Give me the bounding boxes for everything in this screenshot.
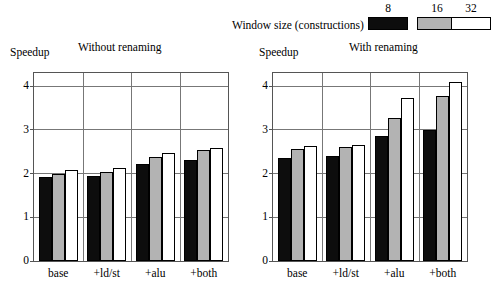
bar-ldst-32 — [113, 168, 126, 261]
bar-base-8 — [278, 158, 291, 261]
bar-base-16 — [291, 149, 304, 261]
bar-base-8 — [39, 177, 52, 261]
y-tick-label-0: 0 — [23, 255, 29, 267]
bar-alu-32 — [162, 153, 175, 261]
legend-key-8: 8 — [368, 2, 408, 14]
bar-ldst-16 — [339, 147, 352, 261]
bar-both-16 — [197, 150, 210, 261]
bar-both-8 — [423, 130, 436, 261]
bar-group: +ld/st — [83, 73, 132, 261]
chart-title: Without renaming — [78, 41, 162, 53]
x-tick-label: +alu — [370, 267, 419, 279]
y-tick-label-3: 3 — [23, 124, 29, 136]
bar-both-32 — [449, 82, 462, 261]
legend: Window size (constructions) 8 16 32 — [0, 4, 497, 34]
bar-alu-16 — [149, 157, 162, 261]
bar-both-32 — [210, 148, 223, 261]
y-tick-label-1: 1 — [23, 212, 29, 224]
bar-group: base — [273, 73, 322, 261]
bar-group: base — [34, 73, 83, 261]
y-tick-label-4: 4 — [23, 80, 29, 92]
bar-both-16 — [436, 96, 449, 261]
legend-title: Window size (constructions) — [232, 19, 364, 31]
bar-both-8 — [184, 160, 197, 261]
chart-title: With renaming — [349, 41, 418, 53]
plot-area: 01234base+ld/st+alu+both — [272, 72, 468, 262]
y-tick-label-3: 3 — [262, 124, 268, 136]
bar-group: +alu — [131, 73, 180, 261]
x-tick-label: +ld/st — [322, 267, 371, 279]
bar-group: +both — [419, 73, 468, 261]
bar-ldst-16 — [100, 172, 113, 261]
legend-entry-8: 8 — [368, 17, 408, 30]
bar-base-16 — [52, 174, 65, 261]
x-tick-label: base — [273, 267, 322, 279]
legend-swatch-8 — [368, 17, 408, 30]
bar-alu-8 — [136, 164, 149, 261]
bar-alu-8 — [375, 136, 388, 261]
x-tick-label: +ld/st — [83, 267, 132, 279]
bar-group: +both — [180, 73, 229, 261]
legend-entry-32: 32 — [451, 17, 491, 30]
bar-alu-32 — [401, 98, 414, 261]
y-tick-label-1: 1 — [262, 212, 268, 224]
legend-swatch-32 — [451, 17, 491, 30]
bar-group: +ld/st — [322, 73, 371, 261]
bar-ldst-32 — [352, 145, 365, 261]
x-tick-label: +alu — [131, 267, 180, 279]
chart-without-renaming: Speedup Without renaming 01234base+ld/st… — [0, 34, 248, 295]
y-tick-label-2: 2 — [23, 168, 29, 180]
y-tick-label-2: 2 — [262, 168, 268, 180]
bar-group: +alu — [370, 73, 419, 261]
y-tick-label-0: 0 — [262, 255, 268, 267]
x-tick-label: base — [34, 267, 83, 279]
x-tick-label: +both — [419, 267, 468, 279]
bar-ldst-8 — [87, 176, 100, 261]
x-tick-label: +both — [180, 267, 229, 279]
bar-ldst-8 — [326, 156, 339, 261]
bar-alu-16 — [388, 118, 401, 261]
y-axis-title: Speedup — [259, 46, 299, 58]
legend-key-32: 32 — [451, 2, 491, 14]
bar-base-32 — [65, 170, 78, 261]
y-axis-title: Speedup — [10, 46, 50, 58]
chart-with-renaming: Speedup With renaming 01234base+ld/st+al… — [249, 34, 497, 295]
y-tick-label-4: 4 — [262, 80, 268, 92]
plot-area: 01234base+ld/st+alu+both — [33, 72, 229, 262]
bar-base-32 — [304, 146, 317, 261]
